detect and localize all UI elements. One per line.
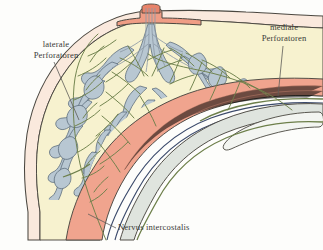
label-nervus-intercostalis: Nervus intercostalis: [118, 222, 248, 233]
label-laterale-perforatoren: laterale Perforatoren: [13, 39, 99, 60]
anatomical-illustration: laterale Perforatoren mediale Perforator…: [0, 0, 323, 250]
label-mediale-perforatoren: mediale Perforatoren: [247, 22, 321, 43]
